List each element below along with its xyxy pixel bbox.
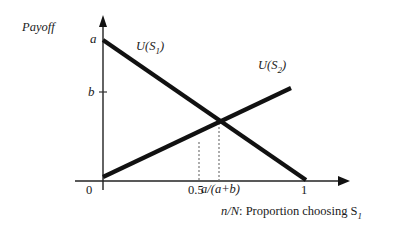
x-tick-label-equilibrium: a/(a+b)	[201, 183, 240, 196]
y-tick-label-a: a	[90, 32, 97, 45]
payoff-chart-figure: Payoff a b U(S1) U(S2) 0 0.5 a/(a+b) 1 n…	[0, 0, 419, 230]
curve-us2-rising	[103, 88, 291, 177]
x-tick-label-one: 1	[301, 184, 307, 197]
curve-us2-label: U(S2)	[258, 59, 286, 75]
x-tick-label-0: 0	[86, 184, 92, 197]
y-tick-label-b: b	[88, 85, 95, 98]
curve-us1-label: U(S1)	[136, 40, 164, 56]
y-axis-title: Payoff	[22, 21, 55, 34]
x-axis-title: n/N: Proportion choosing S1	[221, 205, 362, 221]
